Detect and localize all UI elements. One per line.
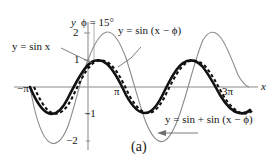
- figure-caption: (a): [131, 140, 147, 154]
- label-sin-x: y = sin x: [12, 41, 50, 52]
- phase-label: ϕ = 15°: [81, 17, 114, 28]
- label-sum: y = sin + sin (x − ϕ): [165, 114, 253, 125]
- trig-superposition-figure: y ϕ = 15° x 2 1 −1 −2 −π π 3π y = sin x …: [0, 0, 279, 162]
- x-tick-label-3pi: 3π: [222, 86, 233, 97]
- y-tick-label-neg1: −1: [84, 108, 96, 119]
- label-sin-x-minus-phi: y = sin (x − ϕ): [118, 25, 181, 36]
- x-tick-label-neg-pi: −π: [17, 83, 29, 94]
- y-tick-label-2: 2: [73, 27, 79, 38]
- x-tick-label-pi: π: [114, 86, 120, 97]
- x-axis-label: x: [261, 81, 266, 92]
- leader-line-sin-shifted: [118, 47, 141, 67]
- arrowhead-sum: [157, 130, 166, 136]
- y-tick-label-neg2: −2: [66, 135, 78, 146]
- y-tick-label-1: 1: [74, 54, 80, 65]
